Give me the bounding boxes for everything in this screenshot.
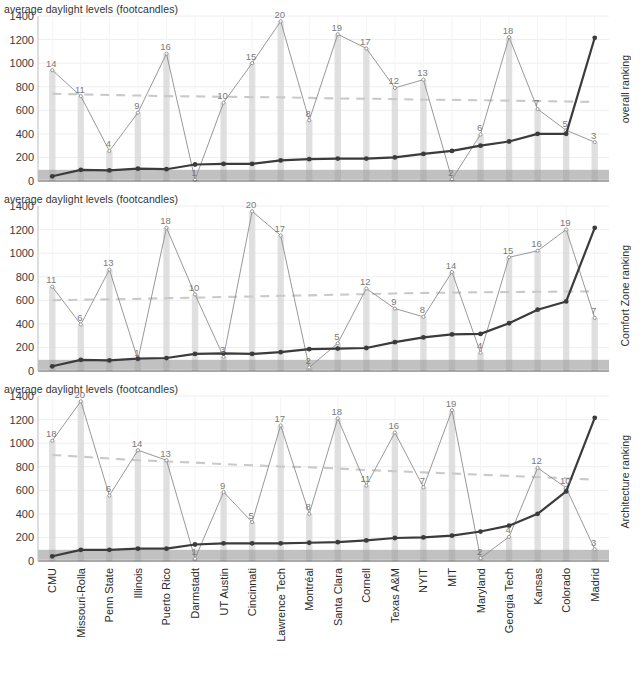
rank-label: 5: [334, 331, 339, 342]
rank-label: 16: [389, 420, 400, 431]
plot-area-architecture: 1820614131951781811167192412103: [0, 383, 642, 573]
rank-label: 17: [360, 36, 371, 47]
x-tick-maryland: Maryland: [475, 568, 487, 613]
x-tick-penn-state: Penn State: [103, 568, 115, 622]
rank-label: 6: [77, 312, 82, 323]
x-tick-lawrence-tech: Lawrence Tech: [275, 568, 287, 642]
rank-label: 14: [46, 58, 57, 69]
rank-label: 9: [134, 100, 139, 111]
x-tick-puerto-rico: Puerto Rico: [160, 568, 172, 625]
rank-label: 9: [391, 296, 396, 307]
rank-label: 14: [132, 438, 143, 449]
plot-area-overall: 1411491611015208191712132618753: [0, 3, 642, 193]
rank-label: 7: [591, 305, 596, 316]
rank-label: 7: [534, 97, 539, 108]
x-tick-kansas: Kansas: [532, 568, 544, 605]
chart-figure: average daylight levels (footcandles)020…: [0, 0, 642, 674]
rank-label: 17: [274, 223, 285, 234]
rank-label: 8: [306, 501, 311, 512]
rank-label: 4: [505, 524, 510, 535]
rank-label: 18: [331, 406, 342, 417]
rank-label: 20: [246, 199, 257, 210]
rank-label: 12: [389, 75, 400, 86]
x-tick-santa-clara: Santa Clara: [332, 568, 344, 626]
rank-label: 1: [191, 546, 196, 557]
x-tick-texas-a-m: Texas A&M: [389, 568, 401, 623]
x-tick-cmu: CMU: [46, 568, 58, 593]
rank-label: 9: [220, 480, 225, 491]
x-tick-cornell: Cornell: [360, 568, 372, 603]
rank-label: 5: [248, 510, 253, 521]
rank-label: 13: [103, 257, 114, 268]
rank-label: 11: [46, 274, 56, 285]
rank-label: 18: [160, 215, 171, 226]
rank-label: 11: [360, 473, 370, 484]
x-tick-montr-al: Montréal: [303, 568, 315, 611]
panel-right-label-overall: overall ranking: [619, 55, 631, 123]
rank-label: 2: [477, 546, 482, 557]
panel-comfort: average daylight levels (footcandles)020…: [0, 193, 642, 383]
rank-label: 3: [591, 537, 596, 548]
rank-label: 16: [160, 41, 171, 52]
panel-right-label-comfort: Comfort Zone ranking: [619, 245, 631, 347]
x-tick-nyit: NYIT: [417, 568, 429, 593]
rank-label: 20: [75, 389, 86, 400]
x-tick-darmstadt: Darmstadt: [189, 568, 201, 619]
plot-area-comfort: 1161311810320172512981441516197: [0, 193, 642, 383]
rank-label: 4: [477, 340, 482, 351]
rank-label: 8: [306, 108, 311, 119]
rank-label: 19: [446, 398, 457, 409]
x-tick-georgia-tech: Georgia Tech: [503, 568, 515, 633]
rank-label: 13: [160, 448, 171, 459]
rank-label: 13: [417, 67, 428, 78]
rank-label: 17: [274, 413, 285, 424]
x-tick-cincinnati: Cincinnati: [246, 568, 258, 616]
rank-label: 18: [503, 25, 514, 36]
panel-overall: average daylight levels (footcandles)020…: [0, 3, 642, 193]
rank-label: 2: [306, 355, 311, 366]
x-tick-madrid: Madrid: [589, 568, 601, 602]
x-tick-colorado: Colorado: [560, 568, 572, 613]
rank-label: 1: [191, 167, 196, 178]
rank-label: 3: [220, 344, 225, 355]
rank-label: 6: [106, 483, 111, 494]
rank-label: 1: [134, 347, 139, 358]
rank-label: 12: [531, 455, 542, 466]
rank-label: 15: [503, 245, 514, 256]
rank-label: 4: [106, 138, 111, 149]
rank-label: 6: [477, 122, 482, 133]
x-tick-ut-austin: UT Austin: [218, 568, 230, 616]
rank-label: 2: [448, 167, 453, 178]
rank-label: 3: [591, 130, 596, 141]
x-tick-missouri-rolla: Missouri-Rolla: [75, 568, 87, 638]
rank-label: 19: [560, 217, 571, 228]
rank-label: 8: [420, 304, 425, 315]
rank-label: 5: [563, 118, 568, 129]
rank-label: 19: [331, 22, 342, 33]
panel-right-label-architecture: Architecture ranking: [619, 435, 631, 528]
rank-label: 7: [420, 475, 425, 486]
rank-label: 10: [217, 90, 228, 101]
panel-architecture: average daylight levels (footcandles)020…: [0, 383, 642, 573]
rank-label: 10: [189, 282, 200, 293]
rank-label: 14: [446, 260, 457, 271]
x-tick-illinois: Illinois: [132, 568, 144, 599]
rank-label: 18: [46, 428, 57, 439]
x-tick-mit: MIT: [446, 568, 458, 587]
rank-label: 10: [560, 475, 571, 486]
rank-label: 12: [360, 276, 371, 287]
rank-label: 20: [274, 9, 285, 20]
rank-label: 15: [246, 51, 257, 62]
rank-label: 11: [75, 84, 85, 95]
rank-label: 16: [531, 238, 542, 249]
